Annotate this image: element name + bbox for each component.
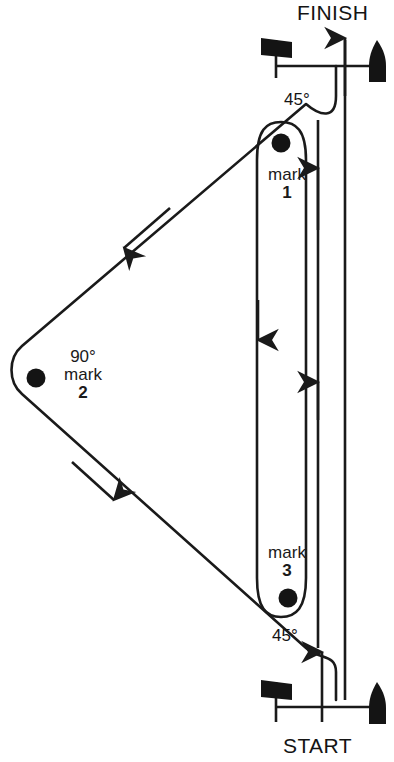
angle-label-bottom: 45° — [272, 627, 298, 645]
mark-1-number: 1 — [258, 184, 316, 202]
arrow-lower-diagonal-down-right — [72, 462, 114, 500]
race-flag-icon — [261, 680, 292, 700]
finish-label: FINISH — [297, 2, 368, 24]
mark-dot-icon — [272, 134, 291, 153]
mark-2-number: 2 — [51, 384, 115, 402]
mark-dot-icon — [279, 589, 298, 608]
route-direction-arrows — [72, 168, 318, 500]
corridor-vertical-lines — [318, 40, 345, 700]
mark-2-label-group: 90° mark 2 — [51, 348, 115, 402]
buoy-icon — [369, 682, 386, 724]
mark-3-number: 3 — [258, 562, 316, 580]
start-label: START — [283, 735, 352, 757]
race-flag-icon — [261, 38, 292, 58]
mark-dot-icon — [27, 369, 46, 388]
sailing-course-diagram: FINISH START 45° 45° mark 1 90° mark 2 m… — [0, 0, 394, 762]
finish-line-group — [261, 38, 386, 96]
arrow-upper-diagonal-down-left — [124, 208, 170, 248]
mark-3-word: mark — [258, 544, 316, 562]
start-line-group — [261, 652, 386, 724]
angle-label-left: 90° — [51, 348, 115, 366]
mark-1-word: mark — [258, 166, 316, 184]
mark-1-label-group: mark 1 — [258, 166, 316, 202]
mark-2-word: mark — [51, 366, 115, 384]
buoy-icon — [369, 40, 386, 82]
mark-3-label-group: mark 3 — [258, 544, 316, 580]
angle-label-top: 45° — [284, 91, 310, 109]
